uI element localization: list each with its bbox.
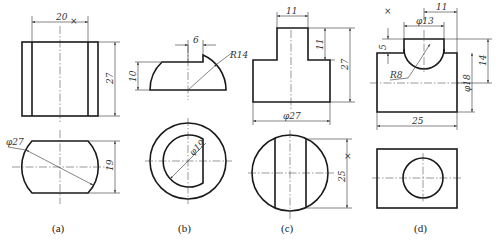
panel-a-top-view	[8, 130, 120, 204]
dim-b-diameter: φ19	[187, 138, 207, 158]
panel-d-front-view	[370, 8, 492, 130]
engineering-drawing-figure: 20 × 27 φ27 19 (a)	[0, 0, 496, 242]
dim-c-top-dim: 25	[337, 170, 347, 183]
dim-d-diameter: φ18	[462, 74, 472, 92]
panel-b-front-view	[135, 40, 233, 100]
x-mark: ×	[384, 6, 392, 16]
dim-d-radius: R8	[389, 70, 403, 80]
panel-b-top-view	[145, 118, 232, 204]
dim-a-height: 27	[105, 72, 115, 85]
dim-a-diameter: φ27	[6, 137, 24, 147]
dim-c-diameter: φ27	[283, 111, 301, 121]
drawing-canvas: 20 × 27 φ27 19 (a)	[0, 0, 496, 242]
dim-d-boss-diameter: φ13	[416, 16, 434, 26]
dim-c-top-height: 11	[315, 39, 325, 50]
dim-b-radius: R14	[229, 50, 249, 60]
caption-b: (b)	[178, 222, 191, 235]
caption-d: (d)	[414, 222, 427, 235]
caption-a: (a)	[52, 222, 65, 235]
panel-c: 11 11 27 φ27 25 × (c)	[248, 6, 355, 235]
dim-d-height: 14	[478, 54, 488, 66]
panel-b: 6 R14 10 φ19 (b)	[128, 35, 249, 235]
dim-a-width: 20	[55, 12, 68, 22]
panel-a: 20 × 27 φ27 19 (a)	[6, 12, 120, 235]
x-mark: ×	[344, 151, 352, 161]
dim-a-top-height: 19	[105, 159, 115, 171]
dim-d-boss-height: 5	[378, 44, 388, 50]
dim-b-step: 6	[193, 35, 199, 45]
dim-d-width: 25	[411, 116, 424, 126]
dim-c-top-width: 11	[286, 6, 297, 16]
x-mark: ×	[70, 16, 78, 26]
dim-b-height: 10	[128, 70, 138, 82]
panel-d-top-view	[372, 149, 462, 208]
dim-d-offset: 11	[436, 2, 447, 12]
caption-c: (c)	[281, 222, 294, 235]
panel-d: 11 φ13 × 5 R8 14 φ18 25 (d)	[370, 2, 492, 235]
panel-a-front-view	[22, 16, 120, 122]
dim-c-height: 27	[340, 58, 350, 71]
